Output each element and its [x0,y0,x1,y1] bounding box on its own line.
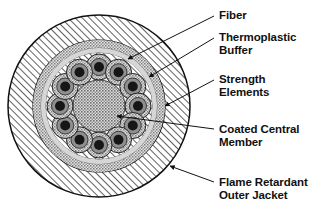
callout-label-fiber: Fiber [219,9,247,22]
callout-label-line: Flame Retardant [219,176,308,189]
callout-label-line: Buffer [219,44,296,57]
fiber-core [128,82,138,92]
fiber-core [60,82,70,92]
callout-label-line: Outer Jacket [219,189,308,202]
coated-central-member-disc [73,80,125,132]
fiber-core [94,140,104,150]
callout-label-line: Fiber [219,9,247,22]
fiber-element [67,59,93,85]
fiber-core [75,135,85,145]
fiber-core [128,121,138,131]
fiber-core [60,121,70,131]
callout-label-line: Thermoplastic [219,31,296,44]
callout-label-line: Coated Central [219,123,299,136]
callout-label-coated-central-member: Coated CentralMember [219,123,299,148]
fiber-core [114,67,124,77]
callout-label-line: Strength [219,73,269,86]
diagram-canvas: FiberThermoplasticBufferStrengthElements… [0,0,328,213]
callout-label-line: Elements [219,86,269,99]
leader-line-flame-retardant-outer-jacket [170,166,214,182]
fiber-core [75,67,85,77]
callout-label-flame-retardant-outer-jacket: Flame RetardantOuter Jacket [219,176,308,201]
coated-central-member [73,80,125,132]
callout-label-thermoplastic-buffer: ThermoplasticBuffer [219,31,296,56]
fiber-core [94,62,104,72]
callout-label-strength-elements: StrengthElements [219,73,269,98]
fiber-core [55,101,65,111]
fiber-core [133,101,143,111]
fiber-core [114,135,124,145]
callout-label-line: Member [219,136,299,149]
